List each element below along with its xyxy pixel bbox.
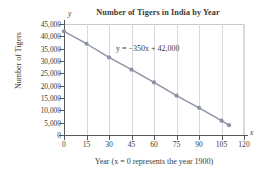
y-tick-mark xyxy=(59,110,64,111)
x-tick-label: 0 xyxy=(62,140,66,149)
x-axis-title: Year (x = 0 represents the year 1900) xyxy=(54,157,254,166)
y-tick-mark xyxy=(59,73,64,74)
x-tick-mark xyxy=(177,136,178,140)
x-tick-label: 60 xyxy=(150,140,158,149)
gridline-vertical xyxy=(222,24,223,135)
x-tick-mark xyxy=(64,136,65,140)
y-axis-title: Number of Tigers xyxy=(14,7,23,115)
y-tick-mark xyxy=(59,49,64,50)
chart-title: Number of Tigers in India by Year xyxy=(78,8,238,17)
y-tick-mark xyxy=(59,98,64,99)
y-tick-label: 0 xyxy=(57,131,61,140)
x-tick-mark xyxy=(222,136,223,140)
y-tick-mark xyxy=(59,36,64,37)
x-tick-mark xyxy=(154,136,155,140)
x-tick-label: 30 xyxy=(105,140,113,149)
y-tick-label: 40,000 xyxy=(41,32,61,41)
gridline-vertical xyxy=(154,24,155,135)
x-tick-label: 75 xyxy=(173,140,181,149)
y-tick-label: 15,000 xyxy=(41,94,61,103)
x-tick-mark xyxy=(244,136,245,140)
y-tick-label: 45,000 xyxy=(41,20,61,29)
x-tick-label: 105 xyxy=(216,140,227,149)
gridline-vertical xyxy=(87,24,88,135)
x-tick-mark xyxy=(109,136,110,140)
y-tick-label: 25,000 xyxy=(41,69,61,78)
y-tick-label: 35,000 xyxy=(41,44,61,53)
x-tick-mark xyxy=(199,136,200,140)
x-tick-label: 15 xyxy=(83,140,91,149)
x-axis-letter: x xyxy=(250,128,253,137)
equation-annotation: y = −350x + 42,000 xyxy=(116,44,180,53)
y-tick-mark xyxy=(59,61,64,62)
y-axis-line xyxy=(64,20,65,139)
x-tick-label: 90 xyxy=(195,140,203,149)
x-tick-mark xyxy=(87,136,88,140)
y-tick-label: 10,000 xyxy=(41,106,61,115)
y-axis-letter: y xyxy=(68,9,71,18)
y-tick-label: 30,000 xyxy=(41,57,61,66)
gridline-vertical xyxy=(177,24,178,135)
gridline-vertical xyxy=(109,24,110,135)
gridline-vertical xyxy=(132,24,133,135)
y-tick-mark xyxy=(59,123,64,124)
chart-figure: Number of Tigers in India by Year y x 05… xyxy=(0,0,275,180)
gridline-vertical xyxy=(244,24,245,135)
y-tick-mark xyxy=(59,24,64,25)
x-tick-mark xyxy=(132,136,133,140)
plot-area xyxy=(64,24,244,135)
gridline-vertical xyxy=(199,24,200,135)
x-tick-label: 45 xyxy=(128,140,136,149)
x-tick-label: 120 xyxy=(238,140,249,149)
y-tick-mark xyxy=(59,86,64,87)
y-tick-label: 20,000 xyxy=(41,81,61,90)
